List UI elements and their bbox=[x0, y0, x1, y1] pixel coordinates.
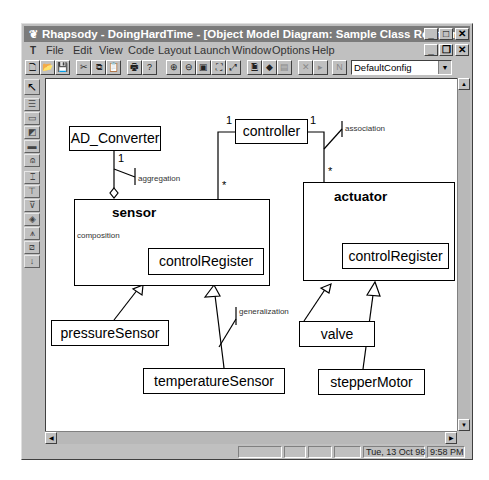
scroll-down-button[interactable]: ▼ bbox=[458, 419, 470, 431]
class-tool[interactable]: ☰ bbox=[24, 98, 40, 111]
stop-button[interactable]: ✕ bbox=[298, 60, 313, 75]
minimize-icon: _ bbox=[428, 28, 434, 39]
scissors-icon: ✂ bbox=[80, 62, 88, 72]
part-control-register[interactable]: controlRegister bbox=[342, 243, 449, 269]
animate-button[interactable]: N bbox=[332, 60, 347, 75]
generalization-label[interactable]: generalization bbox=[239, 307, 289, 316]
arrow-left-icon: ◀ bbox=[49, 435, 54, 441]
aggregation-label[interactable]: aggregation bbox=[138, 174, 180, 183]
save-button[interactable]: 💾 bbox=[55, 60, 70, 75]
restore-icon: ❐ bbox=[442, 44, 451, 55]
generalization-tool[interactable]: ⩚ bbox=[24, 227, 40, 240]
menu-view[interactable]: View bbox=[99, 43, 123, 58]
horizontal-scrollbar[interactable]: ◀ ▶ bbox=[45, 431, 457, 444]
menu-options[interactable]: Options bbox=[272, 43, 310, 58]
menu-bar: T File Edit View Code Layout Launch Wind… bbox=[24, 43, 470, 58]
multiplicity-ad-converter: 1 bbox=[118, 152, 124, 164]
configuration-select[interactable]: DefaultConfig ▼ bbox=[351, 60, 452, 75]
close-button[interactable]: ✕ bbox=[455, 28, 469, 40]
aggregation-tool[interactable]: ⊽ bbox=[24, 199, 40, 212]
new-file-button[interactable]: 🗋 bbox=[25, 60, 40, 75]
class-temperature-sensor[interactable]: temperatureSensor bbox=[143, 368, 285, 394]
menu-launch[interactable]: Launch bbox=[194, 43, 230, 58]
mdi-close-button[interactable]: ✕ bbox=[455, 44, 469, 56]
close-icon: ✕ bbox=[458, 44, 466, 55]
actor-icon: ⍝ bbox=[30, 155, 35, 165]
minimize-button[interactable]: _ bbox=[424, 28, 438, 40]
class-name: pressureSensor bbox=[61, 325, 160, 341]
link-icon: ↓ bbox=[30, 256, 35, 266]
class-controller[interactable]: controller bbox=[235, 119, 308, 144]
class-sensor[interactable]: sensor controlRegister bbox=[74, 199, 270, 286]
class-valve[interactable]: valve bbox=[299, 321, 375, 347]
menu-help[interactable]: Help bbox=[312, 43, 335, 58]
make-button[interactable]: ◆ bbox=[262, 60, 277, 75]
class-actuator[interactable]: actuator controlRegister bbox=[303, 182, 455, 281]
association-tool[interactable]: ⌶ bbox=[24, 171, 40, 184]
menu-layout[interactable]: Layout bbox=[158, 43, 191, 58]
class-name: valve bbox=[321, 326, 354, 342]
composition-label[interactable]: composition bbox=[77, 231, 120, 240]
run-button[interactable]: ▤ bbox=[277, 60, 292, 75]
multiplicity-actuator: * bbox=[328, 165, 332, 177]
menu-file[interactable]: File bbox=[46, 43, 64, 58]
status-panel-3 bbox=[308, 446, 332, 458]
zoom-in-button[interactable]: ⊕ bbox=[166, 60, 181, 75]
arrow-pointer-icon: ↖ bbox=[27, 80, 37, 94]
link-tool[interactable]: ↓ bbox=[24, 255, 40, 268]
menu-edit[interactable]: Edit bbox=[73, 43, 92, 58]
aggregation-icon: ⊽ bbox=[29, 200, 36, 210]
multiplicity-sensor: * bbox=[222, 179, 226, 191]
composition-tool[interactable]: ◈ bbox=[24, 213, 40, 226]
status-panel-2 bbox=[284, 446, 306, 458]
class-pressure-sensor[interactable]: pressureSensor bbox=[51, 320, 169, 346]
association-label[interactable]: association bbox=[345, 124, 385, 133]
scroll-left-button[interactable]: ◀ bbox=[45, 432, 57, 444]
dependency-tool[interactable]: ⧄ bbox=[24, 241, 40, 254]
vertical-scrollbar[interactable]: ▲ ▼ bbox=[457, 78, 470, 431]
title-bar[interactable]: ❦ Rhapsody - DoingHardTime - [Object Mod… bbox=[24, 26, 470, 42]
paste-button[interactable]: 📋 bbox=[106, 60, 121, 75]
mdi-minimize-button[interactable]: _ bbox=[424, 44, 438, 56]
menu-code[interactable]: Code bbox=[128, 43, 154, 58]
zoom-fit-icon: ▣ bbox=[199, 62, 208, 72]
diagram-canvas[interactable]: AD_Converter controller sensor controlRe… bbox=[45, 78, 457, 431]
cut-button[interactable]: ✂ bbox=[76, 60, 91, 75]
association-icon: ⌶ bbox=[30, 172, 35, 182]
step-button[interactable]: ▸ bbox=[313, 60, 328, 75]
class-ad-converter[interactable]: AD_Converter bbox=[69, 126, 161, 151]
maximize-button[interactable]: □ bbox=[439, 28, 453, 40]
help-button[interactable]: ? bbox=[142, 60, 157, 75]
undo-zoom-button[interactable]: ⤢ bbox=[226, 60, 241, 75]
directed-association-icon: ⊤ bbox=[28, 186, 36, 196]
zoom-out-button[interactable]: ⊖ bbox=[181, 60, 196, 75]
mdi-restore-button[interactable]: ❐ bbox=[439, 44, 453, 56]
open-file-button[interactable]: 📂 bbox=[40, 60, 55, 75]
arrow-up-icon: ▲ bbox=[461, 81, 467, 87]
class-name: AD_Converter bbox=[71, 130, 160, 146]
document-icon: 🗎 bbox=[251, 62, 258, 72]
scroll-right-button[interactable]: ▶ bbox=[445, 432, 457, 444]
class-name: stepperMotor bbox=[330, 374, 412, 390]
directed-association-tool[interactable]: ⊤ bbox=[24, 185, 40, 198]
package-tool[interactable]: ▭ bbox=[24, 112, 40, 125]
scroll-up-button[interactable]: ▲ bbox=[458, 78, 470, 90]
window-title: Rhapsody - DoingHardTime - [Object Model… bbox=[42, 26, 469, 42]
composite-tool[interactable]: ▬ bbox=[24, 140, 40, 153]
class-stepper-motor[interactable]: stepperMotor bbox=[318, 369, 425, 395]
zoom-to-fit-button[interactable]: ▣ bbox=[196, 60, 211, 75]
menu-window[interactable]: Window bbox=[232, 43, 271, 58]
undo-zoom-icon: ⤢ bbox=[230, 62, 237, 72]
actor-tool[interactable]: ⍝ bbox=[24, 154, 40, 167]
object-tool[interactable]: ◩ bbox=[24, 126, 40, 139]
select-tool[interactable]: ↖ bbox=[24, 79, 40, 95]
print-button[interactable]: 🖶 bbox=[127, 60, 142, 75]
chevron-down-icon[interactable]: ▼ bbox=[438, 61, 451, 74]
toolbar: 🗋 📂 💾 ✂ ⧉ 📋 🖶 ? ⊕ ⊖ ▣ ⛶ ⤢ 🗎 ◆ ▤ ✕ ▸ N De… bbox=[24, 58, 470, 78]
fit-all-button[interactable]: ⛶ bbox=[211, 60, 226, 75]
copy-button[interactable]: ⧉ bbox=[91, 60, 106, 75]
part-control-register[interactable]: controlRegister bbox=[148, 248, 264, 275]
generate-code-button[interactable]: 🗎 bbox=[247, 60, 262, 75]
mdi-document-icon[interactable]: T bbox=[26, 43, 40, 57]
rhapsody-app-icon[interactable]: ❦ bbox=[26, 27, 40, 41]
